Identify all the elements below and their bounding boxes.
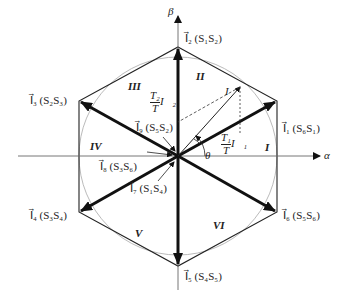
sector-iii-label: III (128, 80, 141, 92)
alpha-axis-label: α (324, 150, 330, 161)
vector-i5-label: I⃗₅ (S₄S₅) (185, 271, 222, 282)
vector-i3-label: I⃗₃ (S₂S₃) (30, 95, 67, 106)
space-vector-diagram: β α I⃗₁ (S₆S₁) I⃗₂ (S₁S₂) I⃗₃ (S₂S₃) I⃗₄… (0, 0, 345, 302)
diagram-canvas (0, 0, 345, 302)
reference-vector-label: I⃗ (225, 86, 237, 97)
t2-component-label: T₂ T I⃗₂ (150, 90, 176, 114)
vector-i2-label: I⃗₂ (S₁S₂) (185, 33, 222, 44)
vector-i7-label: I⃗₇ (S₁S₄) (130, 183, 167, 194)
t1-component-label: T₁ T I⃗₁ (221, 132, 247, 156)
vector-i6 (178, 156, 275, 211)
sector-vi-label: VI (213, 219, 225, 231)
vector-i1-label: I⃗₁ (S₆S₁) (283, 123, 320, 134)
theta-label: θ (205, 150, 210, 161)
vector-i9-label: I⃗₉ (S₅S₂) (136, 122, 173, 133)
vector-i8-label: I⃗₈ (S₃S₆) (100, 161, 137, 172)
sector-i-label: I (265, 141, 269, 153)
vector-i6-label: I⃗₆ (S₅S₆) (283, 210, 320, 221)
sector-iv-label: IV (90, 140, 102, 152)
sector-v-label: V (135, 227, 142, 239)
beta-axis-label: β (168, 6, 173, 17)
sector-ii-label: II (196, 70, 205, 82)
vector-i4-label: I⃗₄ (S₃S₄) (30, 210, 67, 221)
